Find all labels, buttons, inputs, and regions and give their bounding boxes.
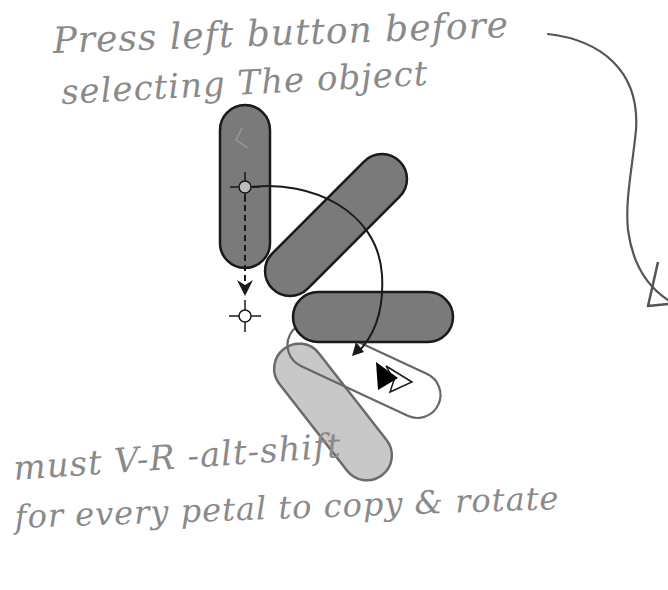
petal-diagonal xyxy=(255,144,418,307)
target-crosshair-icon xyxy=(229,300,261,332)
curved-pointer-arrow xyxy=(548,34,668,306)
cursor-arrow-icon xyxy=(376,362,412,392)
petal-horizontal xyxy=(293,292,453,342)
